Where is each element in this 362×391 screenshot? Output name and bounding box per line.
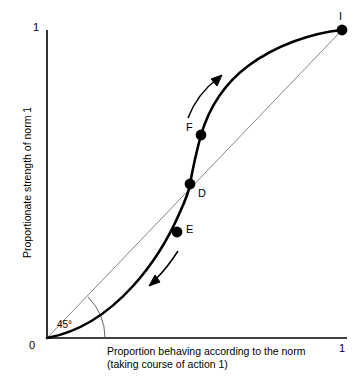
data-point-label-I: I bbox=[339, 11, 342, 22]
data-point-label-D: D bbox=[198, 188, 206, 199]
downward-arrow-shaft bbox=[155, 251, 178, 280]
x-axis-title: Proportion behaving according to the nor… bbox=[107, 345, 305, 370]
data-point-D[interactable] bbox=[185, 179, 196, 190]
y-axis-title: Proportionate strength of norm 1 bbox=[22, 107, 33, 258]
angle-annotation-label: 45° bbox=[57, 320, 72, 330]
axis-lines bbox=[47, 30, 347, 338]
upward-arrow-head bbox=[211, 75, 222, 86]
chart-canvas bbox=[0, 0, 362, 391]
data-point-label-E: E bbox=[186, 224, 193, 235]
data-point-I[interactable] bbox=[337, 25, 348, 36]
y-axis-max-tick-label: 1 bbox=[33, 22, 39, 33]
x-axis-max-tick-label: 1 bbox=[339, 343, 345, 354]
chart-figure: 1 0 1 45° E D F I Proportion behaving ac… bbox=[0, 0, 362, 391]
origin-tick-label: 0 bbox=[29, 340, 35, 351]
data-point-F[interactable] bbox=[196, 130, 207, 141]
upward-arrow-shaft bbox=[188, 79, 217, 118]
data-point-label-F: F bbox=[186, 122, 193, 133]
data-point-E[interactable] bbox=[172, 227, 183, 238]
